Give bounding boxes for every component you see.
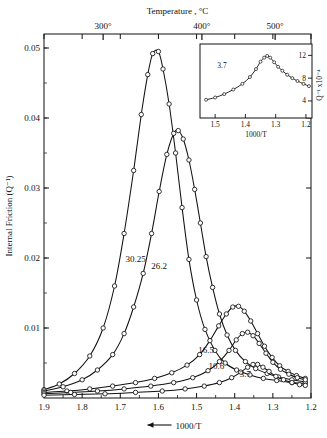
series-label-10.6: 10.6: [209, 361, 225, 371]
data-point: [192, 187, 196, 191]
x-tick-label: 1.6: [153, 402, 165, 412]
inset-y-tick-label: 4: [302, 96, 306, 105]
data-point: [181, 137, 185, 141]
y-tick-label: 0.02: [24, 253, 40, 263]
data-point: [171, 131, 175, 135]
inset-data-point: [223, 93, 226, 96]
inset-data-point: [291, 77, 294, 80]
data-point: [267, 369, 271, 373]
data-point: [242, 309, 246, 313]
data-point: [233, 348, 237, 352]
data-point: [217, 380, 221, 384]
inset-y-tick-label: 8: [302, 74, 306, 83]
data-point: [217, 312, 221, 316]
y-tick-label: 0.04: [24, 113, 40, 123]
data-point: [231, 305, 235, 309]
inset-y-tick-label: 12: [299, 51, 307, 60]
data-point: [110, 352, 114, 356]
chart-figure: 1.91.81.71.61.51.41.31.20.050.040.030.02…: [0, 0, 327, 438]
data-point: [255, 331, 259, 335]
data-point: [274, 374, 278, 378]
data-point: [185, 363, 189, 367]
data-point: [240, 331, 244, 335]
data-point: [224, 312, 228, 316]
data-point: [251, 362, 255, 366]
inset-data-point: [263, 56, 266, 59]
data-point: [191, 376, 195, 380]
data-point: [72, 371, 76, 375]
data-point: [133, 390, 137, 394]
data-point: [101, 326, 105, 330]
data-point: [249, 319, 253, 323]
data-point: [160, 389, 164, 393]
inset-data-point: [248, 76, 251, 79]
data-point: [204, 254, 208, 258]
top-tick-label: 500°: [267, 21, 285, 31]
inset-annotation: 3.7: [217, 61, 227, 70]
x-axis-arrow-head: [148, 422, 154, 428]
series-label-16.5: 16.5: [198, 345, 214, 355]
data-point: [151, 51, 155, 55]
data-point: [170, 371, 174, 375]
data-point: [173, 151, 177, 155]
data-point: [216, 324, 220, 328]
data-point: [146, 72, 150, 76]
data-point: [180, 205, 184, 209]
top-tick-label: 300°: [95, 21, 113, 31]
data-point: [229, 376, 233, 380]
series-label-30.25: 30.25: [125, 254, 146, 264]
data-point: [61, 385, 65, 389]
data-point: [278, 367, 282, 371]
data-point: [208, 338, 212, 342]
inset-data-point: [259, 60, 262, 63]
data-point: [122, 331, 126, 335]
x-tick-label: 1.4: [229, 402, 241, 412]
inset-data-point: [232, 88, 235, 91]
inset-x-label: 1000/T: [245, 130, 267, 139]
data-point: [225, 333, 229, 337]
inset-data-point: [205, 98, 208, 101]
x-tick-label: 1.7: [115, 402, 127, 412]
data-point: [261, 365, 265, 369]
inset-data-point: [277, 65, 280, 68]
data-point: [133, 380, 137, 384]
data-point: [253, 366, 257, 370]
data-point: [131, 168, 135, 172]
data-point: [110, 384, 114, 388]
data-point: [202, 384, 206, 388]
x-tick-label: 1.5: [191, 402, 203, 412]
inset-y-label: Q⁻¹ x10⁻⁴: [315, 69, 324, 101]
data-point: [42, 393, 46, 397]
data-point: [251, 334, 255, 338]
inset-data-point: [255, 68, 258, 71]
x-tick-label: 1.3: [267, 402, 279, 412]
data-point: [281, 378, 285, 382]
data-point: [112, 284, 116, 288]
y-tick-label: 0.05: [24, 43, 40, 53]
data-point: [171, 380, 175, 384]
data-point: [227, 348, 231, 352]
data-point: [245, 330, 249, 334]
data-point: [167, 102, 171, 106]
data-point: [261, 376, 265, 380]
y-tick-label: 0.01: [24, 323, 40, 333]
data-point: [187, 158, 191, 162]
top-tick-label: 400°: [193, 21, 211, 31]
data-point: [295, 376, 299, 380]
inset-x-tick-label: 1.5: [210, 120, 220, 129]
data-point: [183, 387, 187, 391]
data-point: [262, 344, 266, 348]
data-point: [95, 368, 99, 372]
data-point: [157, 189, 161, 193]
inset-x-tick-label: 1.4: [241, 120, 251, 129]
inset-data-point: [269, 56, 272, 59]
data-point: [88, 354, 92, 358]
data-point: [131, 305, 135, 309]
y-axis-label: Internal Friction (Q⁻¹): [4, 175, 14, 256]
data-point: [210, 285, 214, 289]
data-point: [290, 380, 294, 384]
data-point: [149, 384, 153, 388]
data-point: [88, 387, 92, 391]
data-point: [141, 271, 145, 275]
data-point: [187, 257, 191, 261]
